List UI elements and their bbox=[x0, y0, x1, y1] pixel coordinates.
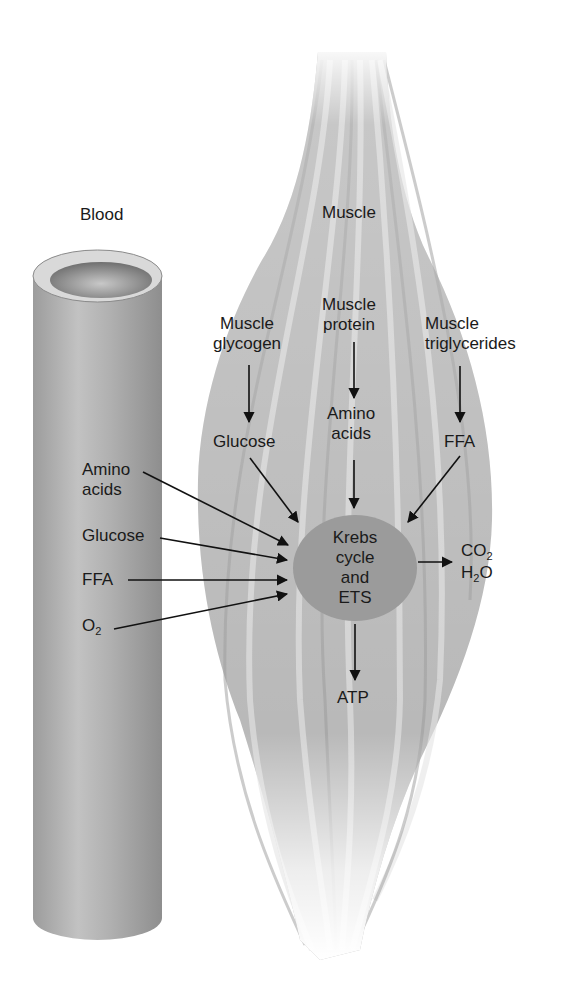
muscle-amino-line2: acids bbox=[327, 424, 375, 444]
h2o-o: O bbox=[479, 563, 492, 582]
krebs-line2: cycle bbox=[325, 548, 385, 568]
krebs-cycle-label: Krebs cycle and ETS bbox=[325, 528, 385, 608]
blood-ffa-label: FFA bbox=[82, 570, 113, 590]
blood-o2-label: O2 bbox=[82, 616, 101, 636]
o2-sub: 2 bbox=[95, 625, 101, 637]
muscle-glycogen-line2: glycogen bbox=[213, 334, 281, 354]
blood-label: Blood bbox=[80, 205, 123, 225]
muscle-glycogen-label: Muscle glycogen bbox=[213, 314, 281, 354]
krebs-line3: and bbox=[325, 568, 385, 588]
blood-vessel bbox=[33, 250, 162, 940]
krebs-line4: ETS bbox=[325, 588, 385, 608]
muscle-glucose-label: Glucose bbox=[213, 432, 275, 452]
muscle-ffa-label: FFA bbox=[444, 432, 475, 452]
blood-amino-line2: acids bbox=[82, 480, 130, 500]
muscle-protein-label: Muscle protein bbox=[322, 295, 376, 335]
co2-h2o-label: CO2 H2O bbox=[461, 540, 493, 584]
blood-amino-acids-label: Amino acids bbox=[82, 460, 130, 500]
muscle-triglycerides-label: Muscle triglycerides bbox=[425, 314, 516, 354]
h2o-h: H bbox=[461, 563, 473, 582]
h2o-label: H2O bbox=[461, 562, 493, 584]
muscle-protein-line2: protein bbox=[322, 315, 376, 335]
muscle-amino-line1: Amino bbox=[327, 404, 375, 424]
co2-base: CO bbox=[461, 541, 487, 560]
muscle-body bbox=[198, 52, 492, 960]
muscle-trig-line2: triglycerides bbox=[425, 334, 516, 354]
blood-glucose-label: Glucose bbox=[82, 526, 144, 546]
krebs-line1: Krebs bbox=[325, 528, 385, 548]
blood-amino-line1: Amino bbox=[82, 460, 130, 480]
muscle-protein-line1: Muscle bbox=[322, 295, 376, 315]
o2-base: O bbox=[82, 616, 95, 635]
muscle-glycogen-line1: Muscle bbox=[213, 314, 281, 334]
co2-sub: 2 bbox=[487, 550, 493, 562]
muscle-trig-line1: Muscle bbox=[425, 314, 516, 334]
co2-label: CO2 bbox=[461, 540, 493, 562]
atp-label: ATP bbox=[337, 688, 369, 708]
muscle-amino-acids-label: Amino acids bbox=[327, 404, 375, 444]
muscle-label: Muscle bbox=[322, 203, 376, 223]
